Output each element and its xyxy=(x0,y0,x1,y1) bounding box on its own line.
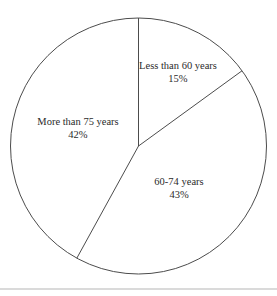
pie-chart-figure: Less than 60 years15%60-74 years43%More … xyxy=(0,0,277,296)
pie-chart xyxy=(0,0,277,296)
bottom-divider xyxy=(0,288,277,290)
